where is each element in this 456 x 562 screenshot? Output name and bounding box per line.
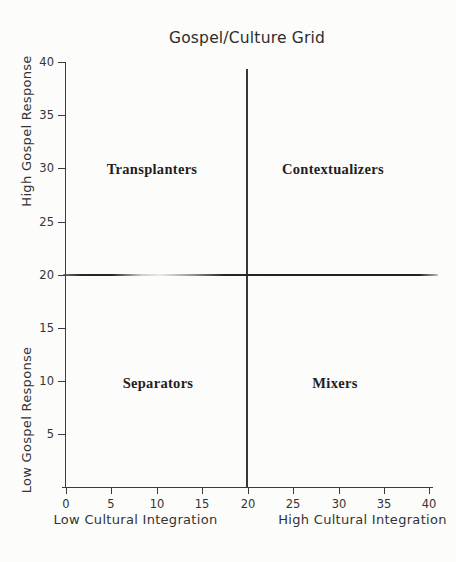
- x-tick-mark-5: [111, 488, 112, 494]
- x-tick-mark-0: [66, 488, 67, 494]
- y-tick-mark-25: [58, 222, 66, 223]
- quadrant-label-contextualizers: Contextualizers: [248, 160, 418, 178]
- x-tick-mark-40: [429, 488, 430, 494]
- chart-title: Gospel/Culture Grid: [66, 29, 428, 47]
- x-tick-label: 30: [324, 497, 354, 511]
- y-axis-caption-bottom: Low Gospel Response: [19, 335, 35, 505]
- x-tick-mark-25: [293, 488, 294, 494]
- y-tick-mark-10: [58, 381, 66, 382]
- x-tick-label: 40: [414, 497, 444, 511]
- quadrant-label-transplanters: Transplanters: [67, 160, 237, 178]
- y-tick-label: 25: [24, 214, 54, 230]
- x-tick-mark-10: [157, 488, 158, 494]
- vertical-divider-line: [246, 69, 248, 487]
- figure-gospel-culture-grid: Gospel/Culture Grid 40 35 30 25 20 15 10…: [0, 0, 456, 562]
- y-tick-mark-40: [58, 62, 66, 63]
- x-tick-mark-35: [384, 488, 385, 494]
- x-tick-mark-20: [248, 488, 249, 494]
- x-tick-label: 10: [142, 497, 172, 511]
- y-tick-mark-15: [58, 328, 66, 329]
- x-tick-label: 0: [51, 497, 81, 511]
- x-axis-caption-right: High Cultural Integration: [270, 512, 455, 528]
- horizontal-divider-line: [63, 274, 438, 276]
- x-tick-label: 35: [369, 497, 399, 511]
- quadrant-label-separators: Separators: [73, 374, 243, 392]
- y-tick-label: 15: [24, 320, 54, 336]
- y-tick-mark-35: [58, 115, 66, 116]
- y-axis-caption-top: High Gospel Response: [19, 46, 35, 216]
- x-tick-mark-15: [202, 488, 203, 494]
- x-tick-mark-30: [339, 488, 340, 494]
- y-tick-mark-30: [58, 168, 66, 169]
- y-tick-mark-5: [58, 434, 66, 435]
- quadrant-label-mixers: Mixers: [250, 374, 420, 392]
- x-tick-label: 20: [233, 497, 263, 511]
- x-tick-label: 25: [278, 497, 308, 511]
- x-tick-label: 5: [96, 497, 126, 511]
- x-tick-label: 15: [187, 497, 217, 511]
- x-axis-caption-left: Low Cultural Integration: [43, 512, 228, 528]
- y-tick-label: 20: [24, 267, 54, 283]
